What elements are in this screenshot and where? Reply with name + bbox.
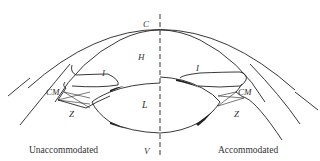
lens-left-capsule-thick — [110, 86, 128, 129]
label-ciliary-muscle-left: CM — [46, 87, 60, 97]
label-ciliary-muscle-right: CM — [238, 87, 252, 97]
label-iris-right: I — [195, 63, 200, 73]
caption-unaccommodated: Unaccommodated — [29, 145, 98, 155]
lens-right-capsule-thick — [176, 79, 212, 126]
iris-left — [72, 65, 119, 87]
label-aqueous-humor: H — [137, 52, 145, 62]
lens-right-half — [160, 77, 220, 133]
caption-accommodated: Accommodated — [218, 145, 278, 155]
eye-accommodation-diagram: C H I I CM CM Z Z L V Unaccommodated Acc… — [0, 0, 320, 161]
zonules-left — [58, 92, 90, 108]
label-cornea: C — [143, 19, 150, 29]
label-zonule-left: Z — [69, 109, 75, 119]
lens-left-half — [92, 83, 160, 133]
label-vitreous: V — [144, 146, 151, 156]
label-lens: L — [141, 99, 148, 110]
iris-right — [180, 72, 246, 87]
label-iris-left: I — [101, 68, 106, 78]
label-zonule-right: Z — [234, 109, 240, 119]
